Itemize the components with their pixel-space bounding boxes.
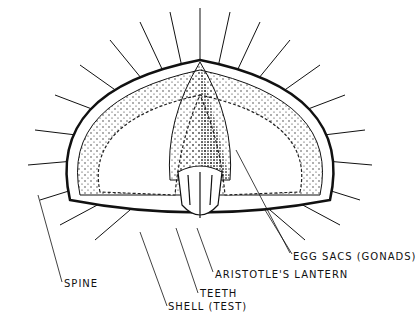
label-aristotles-lantern: ARISTOTLE'S LANTERN bbox=[215, 270, 348, 280]
label-shell-test: SHELL (TEST) bbox=[168, 302, 247, 312]
label-spine: SPINE bbox=[64, 279, 98, 289]
label-egg-sacs-gonads: EGG SACS (GONADS) bbox=[293, 252, 417, 262]
label-teeth: TEETH bbox=[200, 289, 237, 299]
